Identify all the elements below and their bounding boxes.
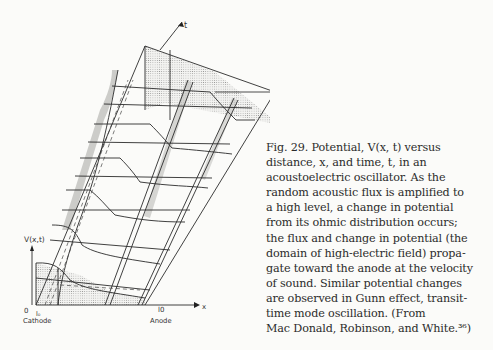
caption-line: a high level, a change in potential: [266, 200, 491, 215]
domain-wall-1: [62, 70, 118, 230]
anode-label: Anode: [150, 317, 172, 325]
dashed-guide: [50, 80, 133, 305]
caption-line: distance, x, and time, t, in an: [266, 155, 491, 170]
caption-line: random acoustic flux is amplified to: [266, 185, 491, 200]
dashed-guide: [45, 80, 128, 305]
profile-slice-5: [94, 124, 232, 154]
caption-line: from its ohmic distribution occurs;: [266, 215, 491, 230]
domain-track-2: [105, 80, 188, 305]
profile-slice-4: [80, 158, 208, 188]
origin-label: 0: [24, 307, 28, 315]
anode-tick-label: l0: [158, 306, 164, 314]
caption-line: domain of high-electric field) propa-: [266, 246, 491, 261]
figure-caption: Fig. 29. Potential, V(x, t) versus dista…: [266, 140, 491, 336]
grid-line: [50, 240, 170, 250]
profile-slice-3: [66, 190, 185, 222]
potential-surface-diagram: t τ V(x,t) x 0 l₀ l0 Cathode Anode: [0, 0, 270, 350]
time-axis-label: t: [184, 21, 187, 30]
caption-line: acoustoelectric oscillator. As the: [266, 170, 491, 185]
v-axis-label: V(x,t): [24, 235, 45, 244]
time-axis: [160, 22, 182, 50]
x-axis-arrow-icon: [194, 302, 200, 308]
caption-line: Mac Donald, Robinson, and White.³⁶): [266, 321, 491, 336]
grid-line: [75, 176, 212, 178]
cathode-label: Cathode: [23, 317, 52, 325]
domain-track-3: [110, 82, 193, 305]
v-axis-arrow-icon: [30, 245, 34, 251]
caption-line: Fig. 29. Potential, V(x, t) versus: [266, 140, 491, 155]
caption-line: the flux and change in potential (the: [266, 231, 491, 246]
anode-time-edge: [145, 92, 270, 305]
x-axis-label: x: [202, 303, 206, 311]
caption-line: time mode oscillation. (From: [266, 306, 491, 321]
top-end-face-shading: [145, 46, 270, 125]
caption-line: gate toward the anode at the velocity: [266, 261, 491, 276]
caption-line: are observed in Gunn effect, transit-: [266, 291, 491, 306]
cathode-time-edge: [36, 46, 145, 305]
caption-line: of sound. Similar potential changes: [266, 276, 491, 291]
